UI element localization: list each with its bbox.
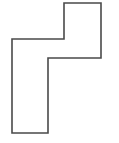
- figure-canvas: [0, 0, 119, 143]
- polygon-outline-svg: [0, 0, 119, 143]
